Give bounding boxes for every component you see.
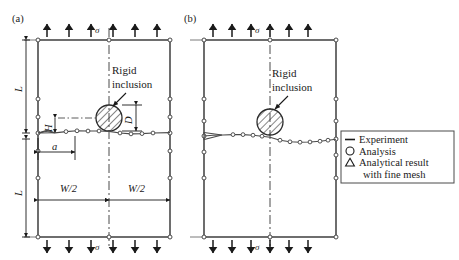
panel-b-tag: (b): [184, 13, 197, 25]
panel-b-annotation-line2: inclusion: [272, 81, 313, 93]
panel-a-dim-W-left-label: W/2: [60, 183, 78, 194]
panel-a-specimen-outline: [38, 40, 170, 237]
legend: Experiment Analysis Analytical result wi…: [341, 131, 454, 183]
panel-b-bottom-load-arrows: [213, 240, 308, 253]
panel-a-annotation-line2: inclusion: [112, 78, 153, 90]
panel-a-sigma-top: σ: [95, 25, 100, 35]
legend-label-experiment: Experiment: [359, 134, 408, 145]
panel-a-top-load-arrows: [47, 24, 157, 37]
panel-a-dim-L-lower-label: L: [13, 190, 24, 197]
panel-b-sigma-top: σ: [255, 25, 260, 35]
panel-a-annotation-line1: Rigid: [112, 64, 137, 76]
panel-b-sigma-bottom: σ: [255, 242, 260, 252]
panel-a-tag: (a): [12, 13, 24, 25]
figure-canvas: (a) σ: [0, 0, 459, 260]
panel-b-annotation-line1: Rigid: [272, 67, 297, 79]
panel-a-dim-a-label: a: [52, 141, 57, 152]
panel-a-dim-L-lower: [22, 139, 30, 237]
panel-a-sigma-bottom: σ: [95, 242, 100, 252]
panel-a-bottom-load-arrows: [47, 240, 157, 253]
panel-a-dim-L-upper-label: L: [13, 86, 24, 93]
panel-a-dim-D-label: D: [123, 116, 134, 125]
panel-a-annotation-leader: [113, 93, 126, 106]
legend-label-analytical-cont: with fine mesh: [363, 169, 426, 180]
legend-label-analysis: Analysis: [359, 146, 396, 157]
panel-b-rigid-inclusion: [257, 109, 283, 135]
panel-a: (a) σ: [12, 13, 172, 253]
panel-b: (b) σ Rigid in: [184, 13, 338, 253]
panel-a-mesh-nodes: [36, 38, 172, 239]
panel-b-top-load-arrows: [213, 24, 308, 37]
panel-b-extension-lines: [190, 40, 204, 237]
panel-a-dim-W-right-label: W/2: [128, 183, 146, 194]
panel-a-rigid-inclusion: [96, 105, 122, 131]
panel-b-annotation-leader: [275, 96, 288, 109]
legend-label-analytical: Analytical result: [359, 157, 429, 168]
